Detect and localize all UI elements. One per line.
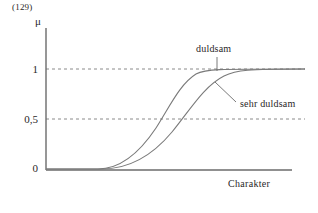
plot-canvas	[0, 0, 318, 213]
fuzzy-membership-figure: (129) μ 1 0,5 0 Charakter duldsam sehr d…	[0, 0, 318, 213]
leader-line-sehr-duldsam	[215, 82, 236, 102]
